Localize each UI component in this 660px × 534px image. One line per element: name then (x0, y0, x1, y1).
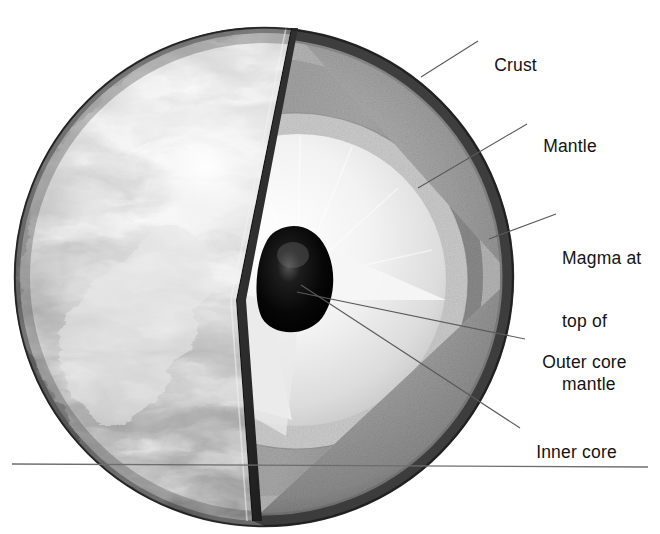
label-mantle: Mantle (533, 115, 597, 157)
label-outer-core-text: Outer core (542, 352, 627, 372)
label-outer-core: Outer core (532, 331, 627, 373)
label-magma-line-1: Magma at (562, 248, 641, 269)
inner-core-highlight (277, 242, 309, 268)
inner-core-layer (256, 226, 333, 332)
label-mantle-text: Mantle (543, 136, 597, 156)
label-crust: Crust (484, 34, 537, 76)
globe-group (15, 28, 513, 526)
label-magma-line-3: mantle (562, 374, 641, 395)
crust-leader-line (421, 41, 478, 77)
label-crust-text: Crust (494, 55, 537, 75)
label-inner-core-text: Inner core (536, 442, 617, 462)
label-magma-at-top-of-mantle: Magma at top of mantle (562, 206, 641, 416)
label-magma-line-2: top of (562, 311, 641, 332)
earth-cutaway-diagram: Crust Mantle Magma at top of mantle Oute… (0, 0, 660, 534)
label-inner-core: Inner core (526, 421, 617, 463)
